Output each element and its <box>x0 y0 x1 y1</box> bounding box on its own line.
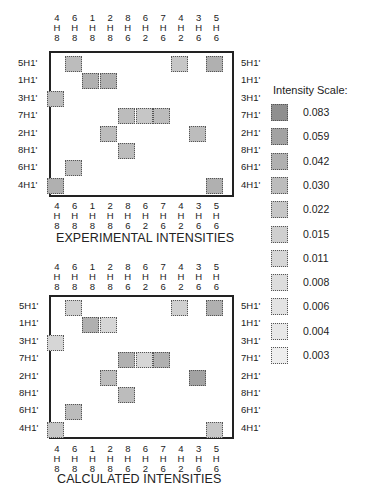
row-label: 4H1' <box>241 423 260 433</box>
intensity-cell <box>65 300 82 316</box>
intensity-cell <box>136 352 153 368</box>
calculated-grid <box>49 295 234 439</box>
row-label: 7H1' <box>241 353 260 363</box>
column-label: 5H6 <box>210 444 222 474</box>
column-label: 4H8 <box>51 444 63 474</box>
intensity-cell <box>171 300 188 316</box>
column-label: 6H8 <box>69 444 81 474</box>
legend-swatch <box>271 250 288 267</box>
legend-swatch <box>271 298 288 315</box>
column-label-sub: 6 <box>122 282 134 292</box>
legend-swatch <box>271 347 288 364</box>
legend-swatch <box>271 226 288 243</box>
column-label: 8H6 <box>122 262 134 292</box>
intensity-cell <box>47 422 64 438</box>
legend-swatch <box>271 177 288 194</box>
column-label-sub: 8 <box>86 282 98 292</box>
column-label: 6H2 <box>140 262 152 292</box>
column-label: 1H8 <box>86 444 98 474</box>
intensity-cell <box>82 317 99 333</box>
row-label: 1H1' <box>19 318 38 328</box>
intensity-cell <box>118 352 135 368</box>
intensity-cell <box>65 404 82 420</box>
column-label: 3H6 <box>193 444 205 474</box>
calculated-panel: 4H86H81H82H88H66H27H64H23H65H6 5H1'1H1'3… <box>0 0 260 494</box>
column-label: 6H8 <box>69 262 81 292</box>
legend-swatch <box>271 104 288 121</box>
column-label-sub: 6 <box>157 282 169 292</box>
legend-title: Intensity Scale: <box>273 84 348 96</box>
intensity-cell <box>153 352 170 368</box>
row-label: 2H1' <box>241 371 260 381</box>
column-label: 7H6 <box>157 444 169 474</box>
column-label: 6H2 <box>140 444 152 474</box>
column-label: 7H6 <box>157 262 169 292</box>
legend-value: 0.004 <box>303 325 329 337</box>
intensity-cell <box>100 370 117 386</box>
row-label: 2H1' <box>19 371 38 381</box>
row-label: 5H1' <box>19 301 38 311</box>
legend-value: 0.022 <box>303 203 329 215</box>
legend-value: 0.008 <box>303 276 329 288</box>
intensity-cell <box>206 300 223 316</box>
calculated-top-column-labels: 4H86H81H82H88H66H27H64H23H65H6 <box>49 262 236 296</box>
row-label: 3H1' <box>241 336 260 346</box>
intensity-cell <box>206 422 223 438</box>
legend-swatch <box>271 128 288 145</box>
intensity-cell <box>47 335 64 351</box>
column-label-sub: 2 <box>140 282 152 292</box>
column-label-sub: 8 <box>69 282 81 292</box>
column-label: 2H8 <box>104 262 116 292</box>
row-label: 7H1' <box>19 353 38 363</box>
column-label: 3H6 <box>193 262 205 292</box>
legend-value: 0.059 <box>303 130 329 142</box>
column-label: 4H2 <box>175 262 187 292</box>
legend-value: 0.006 <box>303 300 329 312</box>
intensity-cell <box>100 317 117 333</box>
legend-value: 0.083 <box>303 106 329 118</box>
legend-value: 0.015 <box>303 228 329 240</box>
column-label: 5H6 <box>210 262 222 292</box>
row-label: 3H1' <box>19 336 38 346</box>
intensity-cell <box>189 370 206 386</box>
column-label: 2H8 <box>104 444 116 474</box>
row-label: 8H1' <box>19 388 38 398</box>
column-label-sub: 8 <box>51 282 63 292</box>
intensity-cell <box>118 387 135 403</box>
legend-value: 0.003 <box>303 349 329 361</box>
legend-swatch <box>271 201 288 218</box>
legend-swatch <box>271 323 288 340</box>
legend-swatch <box>271 153 288 170</box>
legend-value: 0.030 <box>303 179 329 191</box>
column-label: 4H2 <box>175 444 187 474</box>
legend-value: 0.011 <box>303 252 329 264</box>
row-label: 5H1' <box>241 301 260 311</box>
calculated-title: CALCULATED INTENSITIES <box>57 472 222 486</box>
legend-swatch <box>271 274 288 291</box>
column-label: 1H8 <box>86 262 98 292</box>
legend-value: 0.042 <box>303 155 329 167</box>
row-label: 8H1' <box>241 388 260 398</box>
row-label: 4H1' <box>19 423 38 433</box>
column-label: 4H8 <box>51 262 63 292</box>
column-label-sub: 6 <box>210 282 222 292</box>
column-label-sub: 8 <box>104 282 116 292</box>
column-label: 8H6 <box>122 444 134 474</box>
row-label: 6H1' <box>19 405 38 415</box>
column-label-sub: 2 <box>175 282 187 292</box>
row-label: 6H1' <box>241 405 260 415</box>
column-label-sub: 6 <box>193 282 205 292</box>
row-label: 1H1' <box>241 318 260 328</box>
